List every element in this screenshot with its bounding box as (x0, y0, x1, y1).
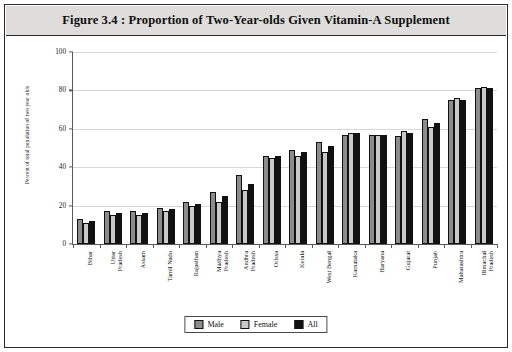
y-tick-label: 20 (59, 202, 66, 210)
bar-group (391, 52, 418, 244)
y-tick-label: 0 (62, 240, 66, 248)
bar-all (195, 204, 201, 244)
x-tick-mark (206, 244, 207, 248)
bar-group (179, 52, 206, 244)
x-tick-label: Orissa (272, 251, 279, 267)
x-tick-mark (126, 244, 127, 248)
bar-group (73, 52, 100, 244)
figure-title-bar: Figure 3.4 : Proportion of Two-Year-olds… (6, 6, 506, 36)
x-tick-mark (285, 244, 286, 248)
bar-all (328, 146, 334, 244)
bar-all (248, 184, 254, 244)
bar-group (285, 52, 312, 244)
x-tick-label: Maharashtra (457, 251, 464, 283)
bar-group (206, 52, 233, 244)
bar-group (100, 52, 127, 244)
x-tick-mark (100, 244, 101, 248)
bar-group (259, 52, 286, 244)
x-tick-label-line: Pradesh (249, 251, 256, 271)
x-tick-mark (259, 244, 260, 248)
x-tick-label: Bihar (86, 251, 93, 265)
x-tick-label: Kerala (298, 251, 305, 268)
x-tick-label-line: Andhra (242, 251, 249, 271)
bar-groups (73, 52, 497, 244)
page-title: Figure 3.4 : Proportion of Two-Year-olds… (62, 13, 450, 28)
x-tick-label-line: West Bengal (325, 251, 332, 283)
x-tick-label-line: Pradesh (116, 251, 123, 271)
legend-label: All (307, 320, 317, 329)
bar-all (487, 88, 493, 244)
x-tick-label-line: Punjab (431, 251, 438, 269)
bar-all (354, 133, 360, 244)
y-axis-title: Percent of total population of two year … (24, 55, 30, 215)
bar-group (444, 52, 471, 244)
y-tick-label: 80 (59, 86, 66, 94)
figure-frame: Figure 3.4 : Proportion of Two-Year-olds… (4, 4, 508, 348)
legend-item-female[interactable]: Female (241, 320, 278, 329)
x-tick-label-line: Pradesh (222, 251, 229, 272)
x-tick-label: Punjab (431, 251, 438, 269)
bar-group (232, 52, 259, 244)
bar-all (275, 156, 281, 244)
legend-item-male[interactable]: Male (194, 320, 223, 329)
x-tick-label: West Bengal (325, 251, 332, 283)
bar-group (365, 52, 392, 244)
x-tick-label-line: Orissa (272, 251, 279, 267)
chart-legend: MaleFemaleAll (184, 316, 327, 333)
bar-all (169, 209, 175, 244)
legend-swatch-female (241, 320, 250, 329)
x-tick-label-line: Kerala (298, 251, 305, 268)
bar-all (142, 213, 148, 244)
x-tick-label: Assam (139, 251, 146, 268)
x-tick-label-line: Tamil Nadu (166, 251, 173, 281)
plot-region: Percent of total population of two year … (5, 36, 507, 347)
x-tick-label: AndhraPradesh (242, 251, 256, 271)
legend-label: Male (207, 320, 223, 329)
bar-group (418, 52, 445, 244)
x-tick-label-line: Maharashtra (457, 251, 464, 283)
x-tick-label-line: Rajasthan (192, 251, 199, 276)
legend-label: Female (254, 320, 278, 329)
x-tick-mark (232, 244, 233, 248)
y-tick-label: 100 (55, 48, 66, 56)
x-tick-label: UttarPradesh (109, 251, 123, 271)
legend-swatch-male (194, 320, 203, 329)
x-tick-label-line: Pradesh (487, 251, 494, 276)
x-tick-label-line: Haryana (378, 251, 385, 273)
bar-group (338, 52, 365, 244)
x-tick-label-line: Bihar (86, 251, 93, 265)
x-tick-mark (338, 244, 339, 248)
x-tick-label: HimachalPradesh (480, 251, 494, 276)
x-tick-label: Tamil Nadu (166, 251, 173, 281)
bar-group (153, 52, 180, 244)
x-tick-mark (312, 244, 313, 248)
bar-all (407, 133, 413, 244)
bar-group (126, 52, 153, 244)
bar-all (222, 196, 228, 244)
chart-plot-area: 020406080100 BiharUttarPradeshAssamTamil… (72, 52, 497, 245)
x-tick-mark (153, 244, 154, 248)
bar-group (312, 52, 339, 244)
x-tick-mark (497, 244, 498, 248)
x-tick-mark (444, 244, 445, 248)
bar-all (89, 221, 95, 244)
bar-all (460, 100, 466, 244)
x-tick-label-line: Gujarat (404, 251, 411, 270)
y-tick-label: 40 (59, 163, 66, 171)
y-tick-label: 60 (59, 125, 66, 133)
x-tick-label-line: Karnataka (351, 251, 358, 277)
x-tick-mark (391, 244, 392, 248)
legend-item-all[interactable]: All (294, 320, 317, 329)
x-tick-label: Haryana (378, 251, 385, 273)
x-tick-mark (179, 244, 180, 248)
x-tick-label: MadhyaPradesh (215, 251, 229, 272)
x-tick-label: Gujarat (404, 251, 411, 270)
x-tick-mark (418, 244, 419, 248)
x-tick-mark (365, 244, 366, 248)
x-tick-label: Rajasthan (192, 251, 199, 276)
x-tick-mark (73, 244, 74, 248)
x-tick-label: Karnataka (351, 251, 358, 277)
bar-all (301, 152, 307, 244)
bar-group (471, 52, 498, 244)
bar-all (116, 213, 122, 244)
